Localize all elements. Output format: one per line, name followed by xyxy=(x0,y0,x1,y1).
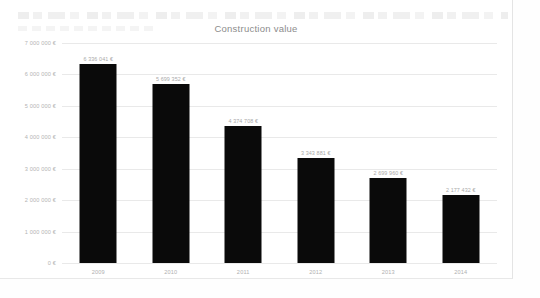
x-axis-category-label: 2012 xyxy=(280,269,353,275)
x-axis: 200920102011201220132014 xyxy=(62,0,497,278)
y-axis-tick-label: 3 000 000 € xyxy=(25,166,56,172)
x-axis-category-label: 2010 xyxy=(135,269,208,275)
y-axis-tick-label: 6 000 000 € xyxy=(25,71,56,77)
x-axis-category-label: 2013 xyxy=(352,269,425,275)
y-axis: 7 000 000 €6 000 000 €5 000 000 €4 000 0… xyxy=(0,43,56,263)
x-axis-category-label: 2009 xyxy=(62,269,135,275)
bar-chart: Construction value 7 000 000 €6 000 000 … xyxy=(0,0,512,278)
x-axis-category-label: 2014 xyxy=(425,269,498,275)
y-axis-tick-label: 7 000 000 € xyxy=(25,40,56,46)
y-axis-tick-label: 2 000 000 € xyxy=(25,197,56,203)
scanned-page: Construction value 7 000 000 €6 000 000 … xyxy=(0,0,540,298)
y-axis-tick-label: 0 € xyxy=(48,260,56,266)
y-axis-tick-label: 4 000 000 € xyxy=(25,134,56,140)
y-axis-tick-label: 1 000 000 € xyxy=(25,229,56,235)
x-axis-category-label: 2011 xyxy=(207,269,280,275)
y-axis-tick-label: 5 000 000 € xyxy=(25,103,56,109)
